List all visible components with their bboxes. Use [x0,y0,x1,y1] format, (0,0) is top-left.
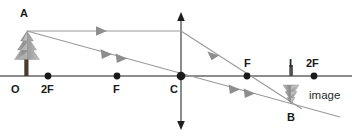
ray-parallel-refracted [181,31,302,109]
point-2F-left [45,73,52,80]
label-O: O [11,84,20,95]
label-B: B [287,112,295,123]
point-F-left [114,73,121,80]
point-F-right [244,73,251,80]
lens-vertical-axis [177,12,185,130]
label-F-left: F [113,84,120,95]
ray-arrow-icon [116,53,127,63]
ray-arrow-icon [207,52,219,61]
diagram-canvas [0,0,352,138]
label-image: image [309,90,340,102]
label-F-right: F [244,58,251,69]
ray-arrow-icon [244,89,255,99]
arrow-down-icon [177,121,185,130]
ray-parallel-incident [27,26,181,36]
ray-arrow-icon [101,49,112,59]
object-tree [15,31,40,76]
label-I: I [289,58,292,69]
point-2F-right [311,73,318,80]
ray-diagram-figure: A O 2F F C F I 2F B image [0,0,352,138]
label-2F-left: 2F [41,84,54,95]
label-2F-right: 2F [306,58,319,69]
label-A: A [20,8,28,19]
arrow-up-icon [177,12,185,21]
label-C: C [170,84,178,95]
ray-arrow-icon [96,26,107,36]
ray-arrow-icon [229,84,240,94]
point-C [177,72,186,81]
